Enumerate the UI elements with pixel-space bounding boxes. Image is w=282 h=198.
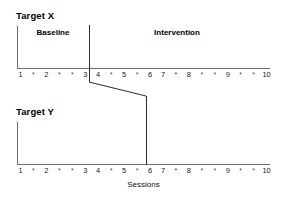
x-tick-star: * xyxy=(27,70,40,80)
x-tick-star: * xyxy=(234,70,247,80)
x-tick-label: 4 xyxy=(92,70,105,80)
x-axis-caption: Sessions xyxy=(17,180,270,189)
x-tick-label: 9 xyxy=(221,70,234,80)
x-tick-label: 5 xyxy=(118,166,131,176)
x-tick-label: 7 xyxy=(156,166,169,176)
x-tick-labels-target-y: 1*2**34*5*67*8**9**10 xyxy=(14,166,273,176)
x-tick-star: * xyxy=(105,70,118,80)
x-tick-star: * xyxy=(195,70,208,80)
x-tick-label: 6 xyxy=(144,70,157,80)
x-tick-label: 5 xyxy=(118,70,131,80)
x-axis-target-x xyxy=(17,68,270,69)
x-tick-label: 10 xyxy=(260,166,273,176)
x-tick-label: 7 xyxy=(156,70,169,80)
y-axis-target-x xyxy=(17,26,18,69)
x-tick-star: * xyxy=(247,166,260,176)
figure-root: Target X Baseline Intervention 1*2**34*5… xyxy=(0,0,282,198)
x-tick-star: * xyxy=(208,166,221,176)
x-tick-labels-target-x: 1*2**34*5*67*8**9**10 xyxy=(14,70,273,80)
x-tick-label: 1 xyxy=(14,166,27,176)
x-tick-label: 4 xyxy=(92,166,105,176)
x-tick-star: * xyxy=(66,166,79,176)
x-tick-star: * xyxy=(131,70,144,80)
x-axis-target-y xyxy=(17,164,270,165)
y-axis-target-y xyxy=(17,122,18,165)
x-tick-star: * xyxy=(195,166,208,176)
x-tick-label: 3 xyxy=(79,70,92,80)
x-tick-star: * xyxy=(131,166,144,176)
x-tick-star: * xyxy=(208,70,221,80)
phase-label-intervention: Intervention xyxy=(89,28,265,37)
x-tick-label: 2 xyxy=(40,166,53,176)
x-tick-label: 10 xyxy=(260,70,273,80)
phase-change-line-target-y xyxy=(146,96,147,165)
x-tick-star: * xyxy=(169,70,182,80)
x-tick-label: 1 xyxy=(14,70,27,80)
x-tick-star: * xyxy=(234,166,247,176)
x-tick-star: * xyxy=(247,70,260,80)
x-tick-star: * xyxy=(53,166,66,176)
x-tick-star: * xyxy=(105,166,118,176)
x-tick-label: 3 xyxy=(79,166,92,176)
x-tick-label: 8 xyxy=(182,166,195,176)
x-tick-label: 9 xyxy=(221,166,234,176)
x-tick-star: * xyxy=(169,166,182,176)
x-tick-star: * xyxy=(27,166,40,176)
x-tick-star: * xyxy=(66,70,79,80)
panel-title-target-x: Target X xyxy=(16,10,54,21)
x-tick-label: 8 xyxy=(182,70,195,80)
x-tick-label: 2 xyxy=(40,70,53,80)
panel-title-target-y: Target Y xyxy=(16,106,54,117)
x-tick-label: 6 xyxy=(144,166,157,176)
phase-label-baseline: Baseline xyxy=(17,28,89,37)
x-tick-star: * xyxy=(53,70,66,80)
